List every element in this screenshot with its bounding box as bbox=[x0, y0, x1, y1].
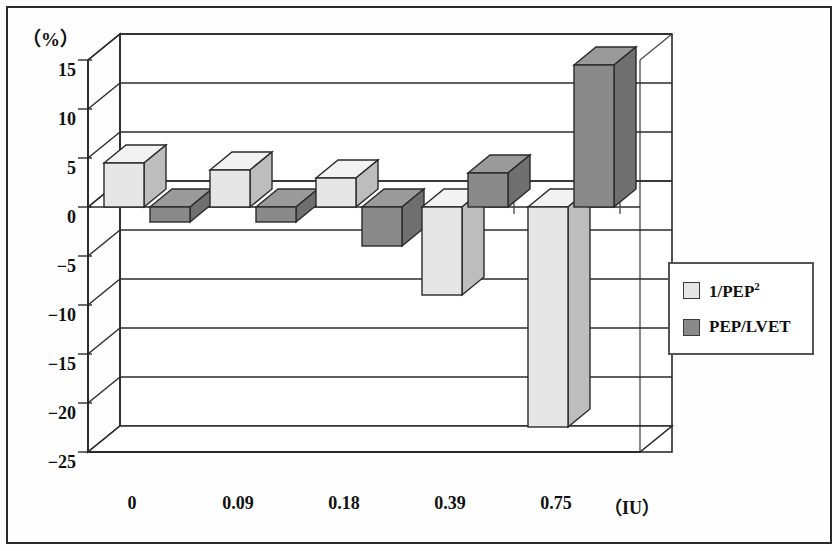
bar-PEPLVET-cat-0.75 bbox=[574, 47, 636, 207]
x-tick-label-0.75: 0.75 bbox=[511, 493, 601, 514]
legend-label-1pep2: 1/PEP2 bbox=[709, 280, 760, 302]
floor-plane bbox=[88, 426, 672, 452]
y-tick-marks bbox=[78, 60, 92, 452]
legend-swatch-peplvet bbox=[683, 319, 700, 336]
x-tick-label-0.09: 0.09 bbox=[193, 493, 283, 514]
x-tick-label-0.18: 0.18 bbox=[299, 493, 389, 514]
legend-item-peplvet: PEP/LVET bbox=[683, 317, 791, 337]
legend-label-peplvet: PEP/LVET bbox=[709, 317, 791, 337]
bar-1PEP2-cat-0.75 bbox=[528, 189, 590, 427]
x-tick-label-0.39: 0.39 bbox=[405, 493, 495, 514]
legend-swatch-1pep2 bbox=[683, 282, 700, 299]
x-tick-label-0: 0 bbox=[87, 493, 177, 514]
legend-item-1pep2: 1/PEP2 bbox=[683, 280, 760, 302]
x-axis-unit-caption: （IU） bbox=[604, 493, 660, 519]
chart-figure: （%） 15 10 5 0 −5 −10 −15 −20 −25 bbox=[0, 0, 840, 551]
legend: 1/PEP2 PEP/LVET bbox=[668, 262, 814, 355]
